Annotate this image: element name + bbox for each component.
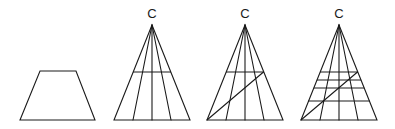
apex-label: C [240,6,249,21]
diagonal-line [207,72,264,120]
trapezoid-shape [20,71,95,120]
trapezoid-figure [20,71,95,120]
apex-label: C [334,6,343,21]
triangle-figure-1: C [114,6,190,120]
triangle-figure-2: C [207,6,283,120]
apex-label: C [147,6,156,21]
triangle-figure-3: C [301,6,377,120]
diagram-canvas: C C C [0,0,395,129]
diagonal-line [301,72,358,120]
